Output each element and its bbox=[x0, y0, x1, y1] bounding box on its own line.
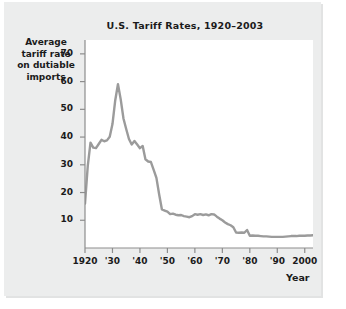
y-tick-label: 40 bbox=[49, 131, 73, 141]
x-axis-title: Year bbox=[286, 272, 310, 283]
figure-container: U.S. Tariff Rates, 1920–2003 Average tar… bbox=[0, 0, 346, 309]
y-tick-label: 30 bbox=[49, 159, 73, 169]
y-tick-label: 10 bbox=[49, 214, 73, 224]
y-tick-label: 20 bbox=[49, 187, 73, 197]
y-tick-label: 50 bbox=[49, 103, 73, 113]
x-tick-label: 2000 bbox=[285, 256, 325, 266]
y-tick-label: 60 bbox=[49, 76, 73, 86]
y-tick-label: 70 bbox=[49, 48, 73, 58]
